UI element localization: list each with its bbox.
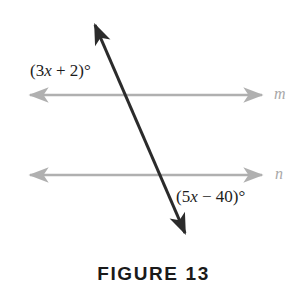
geometry-diagram bbox=[0, 0, 307, 294]
angle-label-upper: (3x + 2)° bbox=[30, 62, 91, 79]
angle-label-upper-variable: x bbox=[44, 61, 52, 80]
angle-label-upper-prefix: (3 bbox=[30, 61, 44, 80]
angle-label-lower-prefix: (5 bbox=[176, 187, 190, 206]
figure-caption: FIGURE 13 bbox=[0, 264, 307, 283]
angle-label-lower-suffix: − 40)° bbox=[198, 187, 246, 206]
figure-container: (3x + 2)° (5x − 40)° m n FIGURE 13 bbox=[0, 0, 307, 294]
transversal-line bbox=[95, 25, 185, 233]
angle-label-lower-variable: x bbox=[190, 187, 198, 206]
angle-label-lower: (5x − 40)° bbox=[176, 188, 245, 205]
angle-label-upper-suffix: + 2)° bbox=[52, 61, 91, 80]
line-label-m: m bbox=[274, 86, 286, 102]
line-label-n: n bbox=[275, 166, 283, 182]
